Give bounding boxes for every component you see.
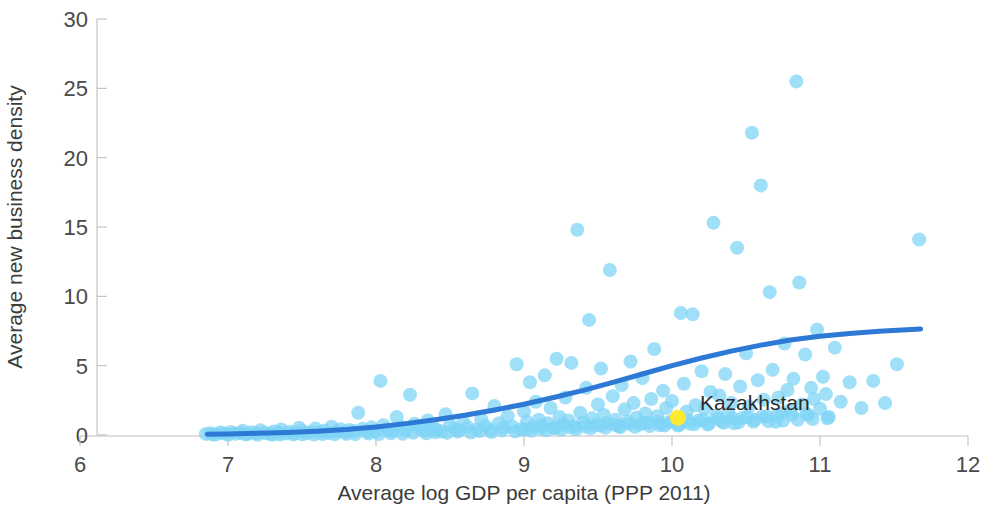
data-point [816,370,830,384]
data-point [465,386,479,400]
x-tick-label: 7 [222,452,234,477]
data-points-layer [199,74,926,441]
y-tick-label: 15 [64,215,88,240]
data-point [647,342,661,356]
x-tick-label: 12 [956,452,980,477]
data-point [594,361,608,375]
data-point [403,388,417,402]
data-point [548,421,562,435]
y-axis-title: Average new business density [3,85,26,369]
data-point [718,367,732,381]
data-point [627,396,641,410]
x-tick-label: 8 [370,452,382,477]
data-point [592,419,606,433]
data-point [745,126,759,140]
x-tick-label: 11 [809,452,832,477]
data-point [510,357,524,371]
highlighted-data-point [670,410,686,426]
data-point [912,232,926,246]
data-point [563,420,577,434]
data-point [792,275,806,289]
y-tick-label: 0 [76,423,88,448]
data-point [450,425,464,439]
data-point [564,356,578,370]
data-point [730,241,744,255]
y-tick-label: 10 [64,284,88,309]
data-point [866,374,880,388]
data-point [428,425,442,439]
data-point [523,375,537,389]
data-point [622,417,636,431]
data-point [538,368,552,382]
y-tick-label: 20 [64,146,88,171]
data-point [890,357,904,371]
data-point [373,374,387,388]
data-point [582,313,596,327]
data-point [789,74,803,88]
data-point [624,355,638,369]
data-point [677,377,691,391]
data-point [637,416,651,430]
data-point [570,223,584,237]
scatter-chart: 051015202530 6789101112 Kazakhstan Avera… [0,0,986,512]
data-point [652,415,666,429]
data-point [834,395,848,409]
y-tick-label: 30 [64,7,88,32]
data-point [763,285,777,299]
data-point [843,375,857,389]
highlight-points-layer [670,410,686,426]
data-point [518,423,532,437]
data-point [607,418,621,432]
x-tick-label: 10 [660,452,684,477]
data-point [798,348,812,362]
data-point [711,412,725,426]
x-axis-ticks: 6789101112 [74,436,980,477]
data-point [603,263,617,277]
data-point [495,423,509,437]
data-point [766,363,780,377]
data-point [751,373,765,387]
x-tick-label: 9 [518,452,530,477]
data-point [686,307,700,321]
data-point [819,387,833,401]
y-tick-label: 5 [76,354,88,379]
data-point [351,406,365,420]
data-point [828,341,842,355]
data-point [533,422,547,436]
data-point [606,389,620,403]
y-axis-ticks: 051015202530 [64,7,107,448]
data-point [706,216,720,230]
annotation-layer: Kazakhstan [700,391,810,414]
data-point [695,364,709,378]
data-point [754,178,768,192]
y-tick-label: 25 [64,76,88,101]
data-point [578,419,592,433]
data-point [854,401,868,415]
data-point [786,372,800,386]
plot-area: 051015202530 6789101112 Kazakhstan Avera… [0,0,986,512]
data-point [674,306,688,320]
data-point [473,424,487,438]
x-tick-label: 6 [74,452,86,477]
x-axis-title: Average log GDP per capita (PPP 2011) [337,481,710,504]
data-point [696,413,710,427]
data-point [878,396,892,410]
data-point [550,352,564,366]
data-point [406,426,420,440]
data-point [644,392,658,406]
data-point [820,411,834,425]
data-point-label: Kazakhstan [700,391,810,414]
data-point [665,394,679,408]
